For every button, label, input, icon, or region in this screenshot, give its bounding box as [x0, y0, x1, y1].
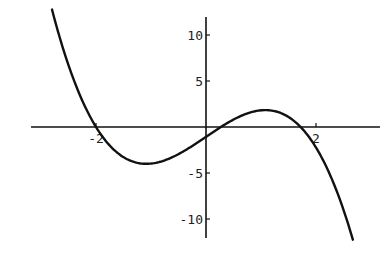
y-tick-label: 5 — [195, 74, 203, 89]
function-plot: -22 105-5-10 — [0, 0, 392, 255]
cubic-curve — [52, 10, 353, 240]
y-tick-label: 10 — [187, 28, 203, 43]
y-tick-label: -5 — [187, 166, 203, 181]
y-tick-label: -10 — [180, 212, 203, 227]
